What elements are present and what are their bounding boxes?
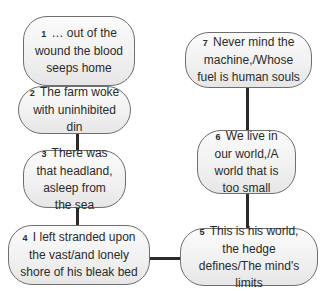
node-1: 1 … out of the wound the blood seeps hom… [23,16,135,86]
node-number: 2 [30,88,35,98]
node-7: 7 Never mind the machine,/Whose fuel is … [185,32,312,88]
node-number: 6 [215,132,220,142]
node-text: There was that headland, asleep from the… [36,146,112,212]
node-number: 3 [41,149,46,159]
node-number: 4 [22,233,27,243]
node-number: 1 [41,29,46,39]
connector-4-5 [148,257,182,260]
node-text: I left stranded upon the vast/and lonely… [20,230,137,279]
node-6: 6 We live in our world,/A world that is … [197,130,296,194]
connector-6-7 [246,86,249,131]
node-text: We live in our world,/A world that is to… [214,129,278,195]
node-text: This is his world, the hedge defines/The… [199,224,299,290]
node-5: 5 This is his world, the hedge defines/T… [180,228,318,286]
node-text: The farm woke with uninhibited din [33,85,119,134]
node-3: 3 There was that headland, asleep from t… [23,150,126,208]
node-4: 4 I left stranded upon the vast/and lone… [8,225,150,285]
node-number: 5 [200,227,205,237]
node-number: 7 [203,38,208,48]
node-text: Never mind the machine,/Whose fuel is hu… [197,35,300,84]
node-text: … out of the wound the blood seeps home [35,26,123,75]
node-2: 2 The farm woke with uninhibited din [18,86,131,134]
